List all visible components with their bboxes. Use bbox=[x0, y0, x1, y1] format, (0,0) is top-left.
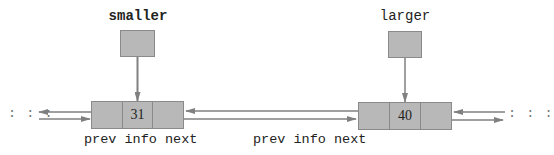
node-prev-field bbox=[92, 102, 123, 128]
node-info-field: 40 bbox=[390, 103, 421, 129]
left-ellipsis: : : : bbox=[8, 106, 54, 121]
list-node-40: 40 bbox=[358, 102, 452, 130]
node-prev-field bbox=[359, 103, 390, 129]
smaller-pointer-box bbox=[120, 30, 155, 57]
node-info-field: 31 bbox=[123, 102, 154, 128]
field-labels-middle: prev info next bbox=[253, 132, 366, 147]
right-ellipsis: : : : bbox=[508, 106, 554, 121]
list-node-31: 31 bbox=[91, 101, 184, 129]
smaller-label: smaller bbox=[98, 8, 178, 24]
node-next-field bbox=[153, 102, 183, 128]
node-next-field bbox=[421, 103, 451, 129]
larger-pointer-box bbox=[388, 31, 422, 58]
field-labels-left: prev info next bbox=[84, 132, 197, 147]
larger-label: larger bbox=[365, 8, 445, 24]
